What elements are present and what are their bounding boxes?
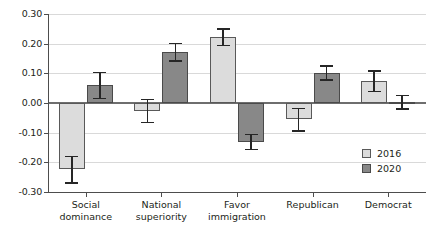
x-axis-tick-mark: [161, 192, 162, 197]
x-axis-category-label: Republican: [275, 199, 351, 211]
x-axis-tick-mark: [388, 192, 389, 197]
x-axis-tick-mark: [313, 192, 314, 197]
legend-label-2016: 2016: [377, 148, 401, 159]
error-bar-cap-lower: [217, 45, 230, 47]
error-bar-line: [222, 29, 224, 46]
error-bar-cap-lower: [169, 60, 182, 62]
bar-chart: 0.300.200.100.00-0.10-0.20-0.30 Social d…: [0, 0, 434, 235]
error-bar-cap-lower: [320, 79, 333, 81]
error-bar-cap-lower: [65, 182, 78, 184]
y-axis-tick-label: 0.10: [2, 67, 42, 78]
error-bar-cap-upper: [245, 134, 258, 136]
error-bar-cap-lower: [93, 98, 106, 100]
error-bar-cap-lower: [141, 122, 154, 124]
error-bar-cap-upper: [396, 95, 409, 97]
error-bar-line: [298, 109, 300, 131]
error-bar-cap-upper: [65, 156, 78, 158]
error-bar-cap-lower: [396, 108, 409, 110]
bar-2016-2: [210, 37, 236, 103]
y-axis-tick-label: -0.10: [2, 127, 42, 138]
y-axis-tick-label: -0.30: [2, 186, 42, 197]
legend: 2016 2020: [362, 146, 401, 176]
error-bar-cap-upper: [169, 43, 182, 45]
error-bar-line: [99, 73, 101, 99]
y-axis-tick-label: 0.30: [2, 8, 42, 19]
error-bar-line: [71, 156, 73, 183]
legend-swatch-icon-2016: [362, 149, 371, 158]
error-bar-cap-upper: [141, 99, 154, 101]
error-bar-cap-upper: [292, 108, 305, 110]
x-axis-category-label: Social dominance: [48, 199, 124, 222]
y-axis-tick-label: 0.20: [2, 38, 42, 49]
error-bar-line: [326, 66, 328, 80]
y-axis-tick-label: -0.20: [2, 156, 42, 167]
x-axis-tick-mark: [86, 192, 87, 197]
error-bar-cap-upper: [320, 65, 333, 67]
legend-item-2016[interactable]: 2016: [362, 146, 401, 161]
error-bar-line: [373, 71, 375, 91]
error-bar-cap-lower: [245, 149, 258, 151]
y-axis-tick-label: 0.00: [2, 97, 42, 108]
error-bar-line: [147, 100, 149, 123]
x-axis-category-label: National superiority: [124, 199, 200, 222]
error-bar-cap-lower: [368, 91, 381, 93]
x-axis-category-label: Favor immigration: [199, 199, 275, 222]
x-axis-tick-mark: [237, 192, 238, 197]
legend-item-2020[interactable]: 2020: [362, 161, 401, 176]
error-bar-line: [175, 43, 177, 61]
error-bar-line: [401, 96, 403, 110]
error-bar-cap-lower: [292, 130, 305, 132]
error-bar-cap-upper: [93, 72, 106, 74]
x-axis-category-label: Democrat: [350, 199, 426, 211]
error-bar-cap-upper: [217, 28, 230, 30]
legend-label-2020: 2020: [377, 163, 401, 174]
error-bar-cap-upper: [368, 70, 381, 72]
legend-swatch-icon-2020: [362, 164, 371, 173]
error-bar-line: [250, 135, 252, 150]
